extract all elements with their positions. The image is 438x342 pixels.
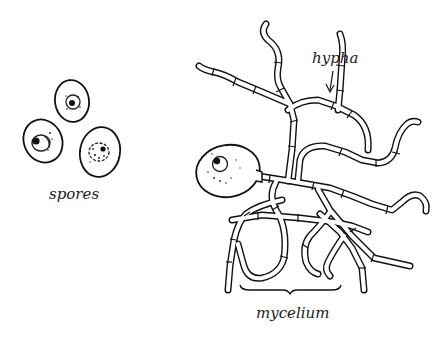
hypha-lumen — [298, 121, 418, 180]
fungus-diagram: spores — [0, 0, 438, 342]
mycelium-group: hypha mycelium — [192, 24, 426, 322]
hypha-arrow — [326, 71, 334, 92]
spore-top — [52, 78, 92, 124]
mycelium-brace — [240, 285, 341, 294]
hypha-label: hypha — [312, 49, 358, 67]
hypha-wall — [288, 100, 368, 150]
spores-label: spores — [49, 185, 99, 203]
spore-right — [76, 124, 124, 180]
spores-group: spores — [16, 78, 124, 203]
hypha-lumen — [288, 100, 368, 150]
spore-left — [16, 113, 69, 169]
germinating-spore — [192, 140, 264, 202]
mycelium-label: mycelium — [256, 304, 329, 322]
